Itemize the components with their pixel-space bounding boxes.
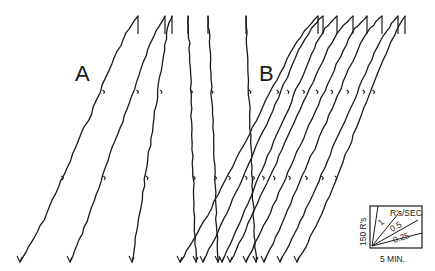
reinforcement-mark <box>331 90 333 94</box>
cumulative-record-a-1 <box>20 16 138 262</box>
reinforcement-mark <box>277 90 279 94</box>
start-mark-b-2 <box>200 256 205 262</box>
legend-rate-units: R's/SEC <box>390 208 422 218</box>
start-mark-b-5 <box>243 256 248 262</box>
rate-legend: R's/SEC 1 0.5 0.25 150 R's 5 MIN. <box>358 206 422 264</box>
reinforcement-mark <box>146 176 148 180</box>
start-mark-a-2 <box>67 256 72 262</box>
start-mark-b-7 <box>277 256 282 262</box>
reinforcement-mark <box>137 90 139 94</box>
cumulative-record-b-5 <box>246 16 367 262</box>
reinforcement-mark <box>363 90 365 94</box>
start-mark-a-6 <box>253 256 258 262</box>
cumulative-record-a-5 <box>208 16 218 262</box>
panel-a-label: A <box>75 61 90 86</box>
reinforcement-mark <box>273 176 275 180</box>
cumulative-record-b-4 <box>230 16 353 262</box>
cumulative-record-b-3 <box>222 16 337 262</box>
reinforcement-mark <box>316 90 318 94</box>
reinforcement-mark <box>335 176 337 180</box>
panel-b <box>177 16 405 262</box>
reinforcement-mark <box>249 90 251 94</box>
reinforcement-mark <box>321 176 323 180</box>
panel-a <box>17 16 258 262</box>
start-mark-b-6 <box>261 256 266 262</box>
reinforcement-mark <box>103 176 105 180</box>
reinforcement-mark <box>347 90 349 94</box>
reinforcement-mark <box>373 90 375 94</box>
legend-x-scale: 5 MIN. <box>380 254 405 264</box>
cumulative-record-a-4 <box>188 16 197 262</box>
reinforcement-mark <box>303 90 305 94</box>
reinforcement-mark <box>228 176 230 180</box>
reinforcement-mark <box>245 176 247 180</box>
reinforcement-mark <box>288 176 290 180</box>
cumulative-record-a-3 <box>132 16 172 262</box>
start-mark-b-8 <box>294 256 299 262</box>
reinforcement-mark <box>262 176 264 180</box>
reinforcement-mark <box>287 90 289 94</box>
panel-b-label: B <box>259 61 274 86</box>
legend-y-scale: 150 R's <box>358 217 368 246</box>
reinforcement-mark <box>305 176 307 180</box>
reinforcement-mark <box>160 90 162 94</box>
reinforcement-mark <box>103 90 105 94</box>
cumulative-record-figure: A B R's/SEC 1 0.5 0.25 150 R's 5 MIN. <box>0 0 435 271</box>
legend-rate-1: 1 <box>376 217 386 228</box>
